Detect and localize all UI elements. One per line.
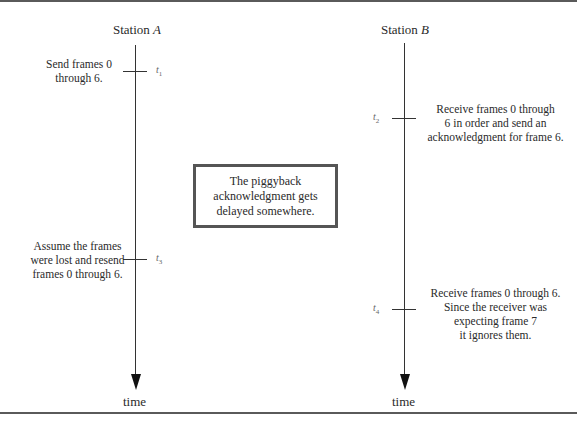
- callout-line: acknowledgment gets: [213, 189, 317, 204]
- time-label-t1: t1: [156, 64, 162, 78]
- note-line: expecting frame 7: [423, 314, 568, 328]
- station-a-arrowhead-icon: [131, 374, 141, 390]
- station-b-prefix: Station: [381, 22, 421, 37]
- tick-t1: [123, 71, 147, 72]
- note-line: Receive frames 0 through 6.: [423, 286, 568, 300]
- station-b-title: Station B: [381, 22, 429, 38]
- station-b-time-label: time: [392, 394, 415, 410]
- note-line: Send frames 0: [44, 57, 114, 71]
- station-b-timeline: [404, 43, 405, 375]
- event-note-t2: Receive frames 0 through 6 in order and …: [423, 102, 568, 144]
- note-line: it ignores them.: [423, 328, 568, 342]
- callout-line: delayed somewhere.: [217, 204, 315, 219]
- station-a-time-label: time: [123, 394, 146, 410]
- note-line: frames 0 through 6.: [30, 267, 125, 281]
- note-line: Receive frames 0 through: [423, 102, 568, 116]
- note-line: 6 in order and send an: [423, 116, 568, 130]
- tick-t4: [392, 309, 416, 310]
- callout-line: The piggyback: [230, 174, 302, 189]
- bottom-rule: [0, 412, 577, 414]
- station-b-name: B: [421, 22, 429, 37]
- station-a-timeline: [135, 45, 136, 375]
- top-rule: [0, 0, 577, 2]
- event-note-t1: Send frames 0 through 6.: [44, 57, 114, 85]
- note-line: Assume the frames: [30, 239, 125, 253]
- event-note-t4: Receive frames 0 through 6. Since the re…: [423, 286, 568, 342]
- callout-box: The piggyback acknowledgment gets delaye…: [193, 164, 338, 228]
- time-label-t2: t2: [373, 111, 379, 125]
- station-b-arrowhead-icon: [400, 374, 410, 390]
- station-a-prefix: Station: [113, 22, 153, 37]
- note-line: acknowledgment for frame 6.: [423, 130, 568, 144]
- time-label-t3: t3: [156, 252, 162, 266]
- tick-t2: [392, 118, 416, 119]
- station-a-name: A: [153, 22, 161, 37]
- station-a-title: Station A: [113, 22, 161, 38]
- note-line: were lost and resend: [30, 253, 125, 267]
- note-line: through 6.: [44, 71, 114, 85]
- event-note-t3: Assume the frames were lost and resend f…: [30, 239, 125, 281]
- note-line: Since the receiver was: [423, 300, 568, 314]
- tick-t3: [123, 259, 147, 260]
- time-label-t4: t4: [373, 302, 379, 316]
